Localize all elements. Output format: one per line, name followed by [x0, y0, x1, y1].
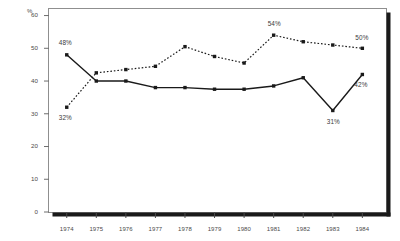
data-point-marker	[361, 73, 364, 76]
data-point-marker	[183, 86, 186, 89]
x-axis-tick-label: 1975	[83, 226, 109, 232]
data-point-value-label: 32%	[59, 115, 72, 121]
data-point-marker	[302, 40, 305, 43]
y-axis-tick-label: 0	[22, 209, 38, 215]
x-axis-tick-label: 1977	[142, 226, 168, 232]
data-point-value-label: 42%	[354, 82, 367, 88]
y-axis-tick-label: 60	[22, 12, 38, 18]
data-point-marker	[272, 33, 275, 36]
data-point-marker	[331, 109, 334, 112]
x-axis-tick-label: 1979	[202, 226, 228, 232]
y-axis-tick-label: 50	[22, 45, 38, 51]
data-point-marker	[213, 88, 216, 91]
data-point-value-label: 31%	[327, 119, 340, 125]
data-point-marker	[95, 71, 98, 74]
plot-frame	[49, 9, 391, 217]
x-axis-tick-label: 1981	[261, 226, 287, 232]
data-point-marker	[183, 45, 186, 48]
data-point-marker	[272, 84, 275, 87]
x-axis-tick-label: 1976	[113, 226, 139, 232]
data-point-value-label: 50%	[355, 35, 368, 41]
data-point-marker	[154, 65, 157, 68]
x-axis-tick-label: 1980	[231, 226, 257, 232]
data-point-marker	[124, 68, 127, 71]
data-point-marker	[154, 86, 157, 89]
data-point-marker	[65, 106, 68, 109]
x-axis-tick-label: 1982	[290, 226, 316, 232]
data-point-value-label: 54%	[268, 21, 281, 27]
data-point-marker	[331, 43, 334, 46]
data-point-marker	[242, 88, 245, 91]
x-axis-tick-label: 1974	[54, 226, 80, 232]
y-axis-tick-label: 40	[22, 78, 38, 84]
data-point-marker	[361, 47, 364, 50]
data-point-value-label: 48%	[59, 40, 72, 46]
data-point-marker	[242, 61, 245, 64]
x-axis-tick-label: 1978	[172, 226, 198, 232]
x-axis-tick-label: 1983	[320, 226, 346, 232]
y-axis-tick-label: 30	[22, 111, 38, 117]
y-axis-tick-label: 10	[22, 176, 38, 182]
x-axis-tick-label: 1984	[349, 226, 375, 232]
data-point-marker	[302, 76, 305, 79]
chart-container: % 0102030405060 197419751976197719781979…	[0, 0, 400, 241]
data-point-marker	[124, 79, 127, 82]
data-point-marker	[213, 55, 216, 58]
data-point-marker	[95, 79, 98, 82]
data-point-marker	[65, 53, 68, 56]
y-axis-tick-label: 20	[22, 143, 38, 149]
